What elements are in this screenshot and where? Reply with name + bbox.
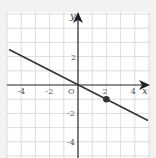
x-tick-label: -2 xyxy=(46,87,54,96)
x-axis-label: x xyxy=(142,85,148,96)
x-tick-label: 2 xyxy=(102,87,107,96)
x-tick-label: 4 xyxy=(131,87,136,96)
coordinate-plane: x y O -4-224 2-2-4 xyxy=(0,0,156,158)
y-tick-label: -4 xyxy=(67,138,75,147)
origin-label: O xyxy=(68,87,75,96)
y-axis-label: y xyxy=(69,10,76,21)
x-tick-label: -4 xyxy=(17,87,25,96)
y-tick-label: 2 xyxy=(71,53,76,62)
y-tick-label: -2 xyxy=(67,109,75,118)
data-point xyxy=(103,96,110,103)
